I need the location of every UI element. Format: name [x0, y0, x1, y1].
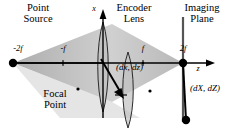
imaging-plane-label: Imaging Plane [173, 3, 231, 24]
image-displacement-label: (dX, dZ) [190, 84, 233, 93]
optical-ray-diagram: Point Source Encoder Lens Imaging Plane … [0, 0, 233, 136]
z-axis-arrowhead [206, 60, 215, 67]
focal-point-label-line2: Point [29, 100, 81, 111]
displaced-image-point-marker [182, 116, 190, 124]
point-source-label: Point Source [6, 3, 70, 24]
encoder-lens-label: Encoder Lens [103, 3, 165, 24]
encoder-lens-label-line2: Lens [103, 14, 165, 25]
object-displacement-label: (dx, dz) [116, 63, 164, 72]
z-axis-label: z [193, 65, 203, 73]
focal-point-dot-lower [148, 89, 151, 92]
image-point-marker [179, 59, 187, 67]
point-source-marker [9, 59, 17, 67]
tick-label-f: f [136, 44, 150, 53]
x-axis-label: x [89, 5, 99, 13]
tick-label-2f: 2f [174, 44, 192, 53]
imaging-plane-label-line2: Plane [173, 14, 231, 25]
focal-point-label: Focal Point [29, 89, 81, 110]
tick-label-minus-f: -f [54, 44, 72, 53]
tick-label-minus-2f: -2f [7, 44, 29, 53]
point-source-label-line2: Source [6, 14, 70, 25]
focal-point-marker-left [62, 62, 65, 65]
